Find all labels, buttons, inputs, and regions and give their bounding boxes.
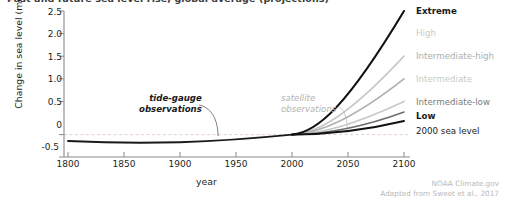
- scenario-label-intermediate-low: Intermediate-low: [416, 97, 490, 107]
- x-tick-label: 1800: [48, 159, 88, 169]
- credit-line-2: Adapted from Sweet et al., 2017: [380, 189, 499, 198]
- scenario-label-intermediate: Intermediate: [416, 74, 472, 84]
- scenario-label-baseline: 2000 sea level: [416, 126, 480, 136]
- annotation-satellite-line2: observations: [281, 104, 336, 115]
- scenario-label-extreme: Extreme: [416, 6, 457, 16]
- annotation-satellite: satellite observations: [281, 93, 336, 115]
- sea-level-rise-chart: Past and future sea level rise, global a…: [0, 0, 505, 202]
- annotation-tide-gauge-line1: tide-gauge: [139, 93, 202, 104]
- annotation-tide-gauge: tide-gauge observations: [139, 93, 202, 115]
- y-tick-label: 0.5: [32, 97, 62, 107]
- x-tick-label: 2000: [272, 159, 312, 169]
- x-tick-label: 1950: [216, 159, 256, 169]
- x-tick-label: 2050: [328, 159, 368, 169]
- scenario-label-high: High: [416, 28, 436, 38]
- x-tick-label: 1900: [160, 159, 200, 169]
- y-tick-label: -0.5: [29, 142, 59, 152]
- scenario-label-intermediate-high: Intermediate-high: [416, 51, 494, 61]
- scenario-label-low: Low: [416, 111, 436, 121]
- x-tick-label: 1850: [104, 159, 144, 169]
- y-tick-label: 2.5: [32, 7, 62, 17]
- y-tick-label: 1.5: [32, 52, 62, 62]
- leader-line-tide-gauge: [199, 105, 218, 136]
- credit-line-1: NOAA Climate.gov: [432, 179, 499, 188]
- annotation-tide-gauge-line2: observations: [139, 104, 202, 115]
- y-axis-title: Change in sea level (meters): [13, 0, 24, 112]
- annotation-satellite-line1: satellite: [281, 93, 336, 104]
- y-tick-label: 2.0: [32, 29, 62, 39]
- y-tick-label: 1.0: [32, 74, 62, 84]
- x-tick-label: 2100: [384, 159, 424, 169]
- chart-title: Past and future sea level rise, global a…: [7, 0, 427, 4]
- x-axis-title: year: [196, 176, 217, 187]
- curve-historical-observations: [68, 135, 292, 143]
- y-tick-label: 0: [32, 120, 62, 130]
